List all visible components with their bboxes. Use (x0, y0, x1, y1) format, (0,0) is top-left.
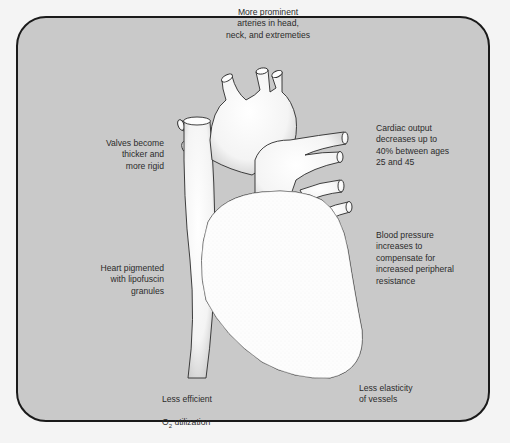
o2-line1: Less efficient (162, 394, 212, 404)
label-blood-pressure: Blood pressure increases to compensate f… (376, 230, 496, 287)
ventricles (201, 191, 362, 378)
label-valves-rigid: Valves become thicker and more rigid (40, 138, 164, 172)
label-vessel-elasticity: Less elasticity of vessels (359, 383, 459, 406)
label-prominent-arteries: More prominent arteries in head, neck, a… (208, 7, 328, 41)
label-cardiac-output: Cardiac output decreases up to 40% betwe… (376, 123, 486, 169)
label-o2-utilization: Less efficient O2 utilization (162, 383, 252, 432)
label-lipofuscin: Heart pigmented with lipofuscin granules (40, 263, 164, 297)
o2-prefix: O (162, 417, 169, 427)
o2-suffix: utilization (172, 417, 210, 427)
heart-illustration (0, 0, 510, 443)
